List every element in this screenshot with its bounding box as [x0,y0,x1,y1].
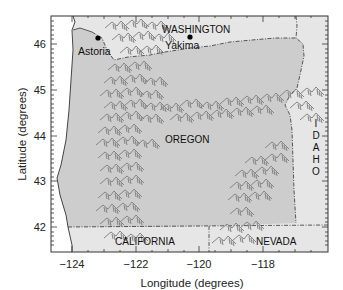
city-label-astoria: Astoria [78,45,111,57]
y-tick-label: 45 [34,84,46,96]
y-tick-label: 42 [34,221,46,233]
x-tick-label: −120 [187,258,212,270]
y-tick-label: 46 [34,38,46,50]
astoria-marker-icon [95,35,100,40]
state-label-idaho-4: H [312,154,319,165]
state-label-idaho-5: O [312,166,320,177]
state-label-washington: WASHINGTON [162,24,230,35]
y-tick-label: 44 [34,130,46,142]
state-label-california: CALIFORNIA [115,236,175,247]
state-label-nevada: NEVADA [256,236,297,247]
state-label-idaho-2: D [312,130,319,141]
x-tick-label: −122 [124,258,149,270]
y-axis-title: Latitude (degrees) [16,87,28,181]
x-axis-title: Longitude (degrees) [141,277,244,289]
city-label-yakima: Yakima [165,39,199,51]
x-tick-label: −118 [251,258,275,270]
oregon-map: −124 −122 −120 −118 46 45 44 43 42 Longi… [0,0,343,290]
state-label-idaho-3: A [313,142,320,153]
state-label-oregon: OREGON [165,134,209,145]
state-label-idaho-1: I [315,118,318,129]
y-tick-label: 43 [34,175,46,187]
x-tick-label: −124 [60,258,85,270]
